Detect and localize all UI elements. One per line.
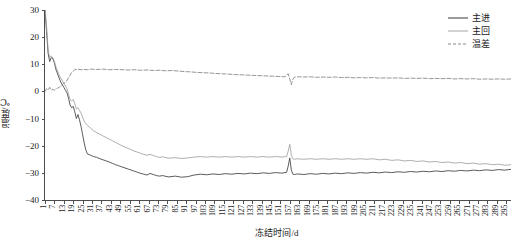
x-tick-mark bbox=[233, 200, 234, 204]
x-tick-label: 211 bbox=[369, 205, 377, 216]
x-tick-label: 193 bbox=[341, 205, 349, 216]
x-tick-mark bbox=[205, 200, 206, 204]
legend-item: 主回 bbox=[448, 25, 518, 37]
x-tick-mark bbox=[83, 200, 84, 204]
x-tick-label: 187 bbox=[332, 205, 340, 216]
legend-label: 温差 bbox=[472, 39, 490, 49]
x-tick-label: 259 bbox=[445, 205, 453, 216]
x-tick-mark bbox=[243, 200, 244, 204]
x-tick-label: 157 bbox=[285, 205, 293, 216]
x-tick-mark bbox=[337, 200, 338, 204]
y-tick-mark bbox=[42, 37, 45, 38]
x-tick-mark bbox=[403, 200, 404, 204]
x-tick-mark bbox=[101, 200, 102, 204]
legend-swatch-solid-light bbox=[448, 26, 468, 36]
x-tick-mark bbox=[149, 200, 150, 204]
x-tick-mark bbox=[224, 200, 225, 204]
y-tick-mark bbox=[42, 10, 45, 11]
legend-label: 主进 bbox=[472, 13, 490, 23]
x-tick-label: 217 bbox=[379, 205, 387, 216]
x-tick-label: 163 bbox=[294, 205, 302, 216]
y-tick-label: −30 bbox=[16, 168, 42, 177]
x-tick-label: 91 bbox=[181, 205, 189, 212]
x-tick-mark bbox=[412, 200, 413, 204]
x-tick-mark bbox=[186, 200, 187, 204]
x-tick-label: 1 bbox=[40, 205, 48, 209]
plot-area bbox=[44, 10, 511, 201]
legend-swatch-dashed bbox=[448, 39, 468, 49]
x-tick-label: 229 bbox=[398, 205, 406, 216]
x-tick-mark bbox=[431, 200, 432, 204]
legend-item: 主进 bbox=[448, 12, 518, 24]
x-tick-mark bbox=[158, 200, 159, 204]
x-tick-label: 7 bbox=[49, 205, 57, 209]
x-tick-mark bbox=[487, 200, 488, 204]
x-tick-label: 55 bbox=[125, 205, 133, 212]
x-tick-mark bbox=[422, 200, 423, 204]
plot-svg bbox=[45, 10, 511, 200]
x-tick-mark bbox=[214, 200, 215, 204]
x-tick-mark bbox=[167, 200, 168, 204]
x-tick-mark bbox=[280, 200, 281, 204]
x-tick-label: 253 bbox=[435, 205, 443, 216]
x-tick-label: 79 bbox=[162, 205, 170, 212]
x-tick-mark bbox=[393, 200, 394, 204]
x-tick-label: 199 bbox=[351, 205, 359, 216]
y-tick-mark bbox=[42, 91, 45, 92]
x-tick-mark bbox=[92, 200, 93, 204]
y-tick-mark bbox=[42, 64, 45, 65]
x-tick-label: 277 bbox=[473, 205, 481, 216]
y-tick-label: 30 bbox=[16, 6, 42, 15]
x-tick-label: 115 bbox=[219, 205, 227, 216]
x-tick-label: 121 bbox=[228, 205, 236, 216]
x-tick-mark bbox=[111, 200, 112, 204]
series-line bbox=[45, 69, 511, 91]
x-tick-label: 283 bbox=[482, 205, 490, 216]
x-tick-mark bbox=[384, 200, 385, 204]
x-tick-label: 31 bbox=[87, 205, 95, 212]
y-tick-label: 20 bbox=[16, 33, 42, 42]
x-tick-label: 61 bbox=[134, 205, 142, 212]
y-tick-label: −20 bbox=[16, 141, 42, 150]
x-tick-mark bbox=[450, 200, 451, 204]
x-tick-label: 265 bbox=[454, 205, 462, 216]
x-tick-mark bbox=[374, 200, 375, 204]
x-tick-mark bbox=[299, 200, 300, 204]
x-tick-mark bbox=[497, 200, 498, 204]
chart-legend: 主进主回温差 bbox=[448, 12, 518, 51]
x-tick-mark bbox=[327, 200, 328, 204]
x-axis-title: 冻结时间/d bbox=[44, 228, 510, 238]
x-tick-label: 43 bbox=[106, 205, 114, 212]
x-tick-mark bbox=[346, 200, 347, 204]
series-line bbox=[45, 10, 511, 177]
x-tick-mark bbox=[262, 200, 263, 204]
x-tick-label: 271 bbox=[464, 205, 472, 216]
x-tick-mark bbox=[365, 200, 366, 204]
legend-swatch-solid bbox=[448, 13, 468, 23]
x-tick-label: 109 bbox=[209, 205, 217, 216]
x-tick-label: 103 bbox=[200, 205, 208, 216]
x-tick-mark bbox=[318, 200, 319, 204]
x-tick-label: 85 bbox=[172, 205, 180, 212]
x-tick-mark bbox=[73, 200, 74, 204]
x-tick-label: 37 bbox=[96, 205, 104, 212]
x-tick-mark bbox=[309, 200, 310, 204]
y-tick-mark bbox=[42, 119, 45, 120]
x-tick-label: 175 bbox=[313, 205, 321, 216]
y-tick-label: 0 bbox=[16, 87, 42, 96]
x-tick-mark bbox=[271, 200, 272, 204]
x-tick-mark bbox=[130, 200, 131, 204]
x-tick-label: 133 bbox=[247, 205, 255, 216]
x-tick-mark bbox=[45, 200, 46, 204]
x-tick-label: 127 bbox=[238, 205, 246, 216]
x-tick-label: 25 bbox=[78, 205, 86, 212]
x-tick-label: 67 bbox=[144, 205, 152, 212]
y-tick-mark bbox=[42, 173, 45, 174]
x-tick-label: 97 bbox=[191, 205, 199, 212]
x-tick-mark bbox=[506, 200, 507, 204]
x-tick-label: 241 bbox=[417, 205, 425, 216]
chart-container: 温度/℃ 3020100−10−20−30−40 171319253137434… bbox=[0, 0, 521, 242]
x-tick-mark bbox=[177, 200, 178, 204]
x-tick-label: 151 bbox=[275, 205, 283, 216]
x-tick-label: 289 bbox=[492, 205, 500, 216]
